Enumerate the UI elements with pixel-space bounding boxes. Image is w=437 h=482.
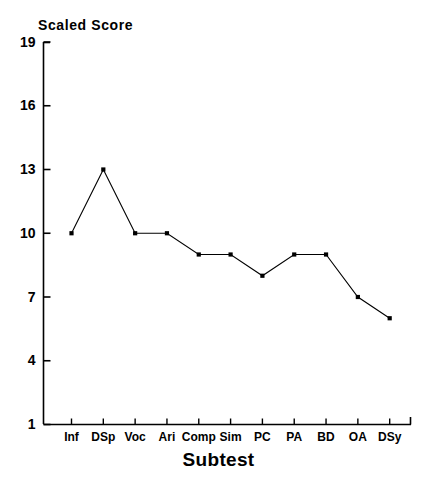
x-tick-label-voc: Voc: [125, 430, 146, 444]
x-tick-label-pa: PA: [286, 430, 302, 444]
x-tick-label-oa: OA: [349, 430, 367, 444]
data-point-pc: [260, 274, 264, 278]
series-markers: [69, 167, 391, 320]
y-tick-marks: [44, 42, 51, 425]
x-tick-label-dsy: DSy: [378, 430, 402, 444]
y-tick-label: 7: [28, 289, 36, 305]
data-point-bd: [324, 252, 328, 256]
y-tick-label: 19: [20, 34, 36, 50]
y-tick-label: 16: [20, 97, 36, 113]
data-series: [69, 167, 391, 320]
axes: [44, 42, 412, 425]
data-point-voc: [133, 231, 137, 235]
y-tick-labels: 14710131619: [20, 34, 36, 433]
series-line: [72, 170, 390, 319]
x-tick-labels: InfDSpVocAriCompSimPCPABDOADSy: [64, 430, 402, 444]
scaled-score-line-chart: Scaled Score 14710131619 InfDSpVocAriCom…: [0, 0, 437, 482]
data-point-ari: [165, 231, 169, 235]
data-point-sim: [228, 252, 232, 256]
data-point-inf: [69, 231, 73, 235]
x-tick-label-comp: Comp: [182, 430, 216, 444]
data-point-dsy: [388, 316, 392, 320]
x-tick-label-sim: Sim: [220, 430, 242, 444]
y-tick-label: 10: [20, 225, 36, 241]
x-tick-label-dsp: DSp: [91, 430, 115, 444]
y-tick-label: 13: [20, 161, 36, 177]
x-tick-label-ari: Ari: [159, 430, 176, 444]
x-tick-marks: [72, 419, 390, 425]
data-point-pa: [292, 252, 296, 256]
data-point-dsp: [101, 167, 105, 171]
chart-canvas: 14710131619 InfDSpVocAriCompSimPCPABDOAD…: [0, 0, 437, 482]
y-tick-label: 1: [28, 416, 36, 432]
x-tick-label-pc: PC: [254, 430, 271, 444]
y-tick-label: 4: [28, 352, 36, 368]
x-tick-label-bd: BD: [317, 430, 335, 444]
x-tick-label-inf: Inf: [64, 430, 80, 444]
x-axis-title: Subtest: [0, 449, 437, 471]
data-point-comp: [197, 252, 201, 256]
data-point-oa: [356, 295, 360, 299]
